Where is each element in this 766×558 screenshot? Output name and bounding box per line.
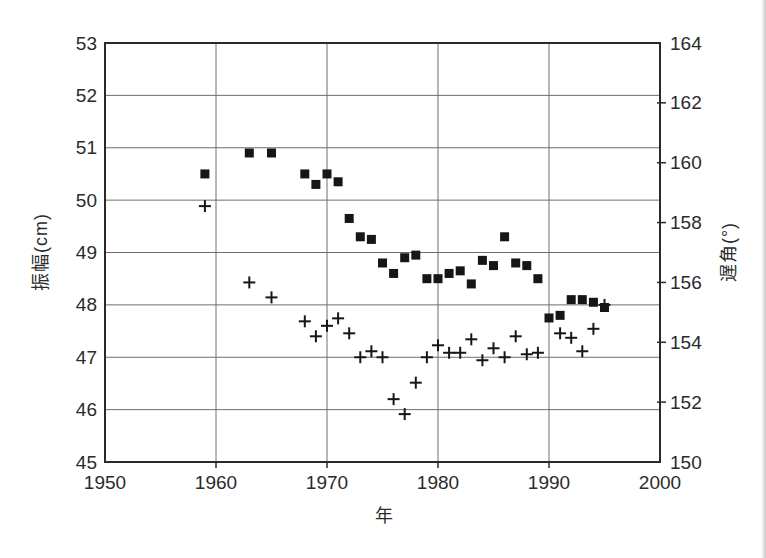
scatter-figure: 1950196019701980199020005352515049484746… [0,0,766,558]
amplitude-point [522,261,531,270]
y-left-tick-label: 47 [76,347,97,368]
amplitude-point [378,258,387,267]
amplitude-point [545,313,554,322]
amplitude-point [422,274,431,283]
amplitude-point [489,261,498,270]
amplitude-point [567,295,576,304]
y-left-tick-label: 51 [76,137,97,158]
y-right-tick-label: 152 [670,392,702,413]
x-axis-title: 年 [375,501,394,527]
amplitude-point [356,232,365,241]
y-right-tick-label: 156 [670,272,702,293]
x-tick-label: 1970 [306,472,348,493]
amplitude-point [578,295,587,304]
y-left-tick-label: 50 [76,190,97,211]
amplitude-point [434,274,443,283]
amplitude-point [245,148,254,157]
y-right-tick-label: 160 [670,152,702,173]
y-left-tick-label: 53 [76,33,97,54]
y-axis-title-right: 遅角(°) [714,222,740,282]
y-left-tick-label: 46 [76,399,97,420]
amplitude-point [334,177,343,186]
amplitude-point [500,232,509,241]
amplitude-point [478,256,487,265]
amplitude-point [311,180,320,189]
amplitude-point [389,269,398,278]
amplitude-point [323,169,332,178]
y-left-tick-label: 48 [76,294,97,315]
amplitude-point [533,274,542,283]
x-tick-label: 1980 [417,472,459,493]
y-right-tick-label: 164 [670,33,702,54]
scatter-chart-canvas: 1950196019701980199020005352515049484746… [0,0,766,558]
y-right-tick-label: 162 [670,92,702,113]
amplitude-point [345,214,354,223]
amplitude-point [445,269,454,278]
amplitude-point [556,311,565,320]
amplitude-point [467,279,476,288]
x-tick-label: 1950 [84,472,126,493]
amplitude-point [267,148,276,157]
y-right-tick-label: 154 [670,332,702,353]
amplitude-point [511,258,520,267]
x-tick-label: 1990 [528,472,570,493]
amplitude-point [300,169,309,178]
y-axis-title-left: 振幅(cm) [26,213,52,291]
y-right-tick-label: 158 [670,212,702,233]
amplitude-point [456,266,465,275]
x-tick-label: 2000 [639,472,681,493]
amplitude-point [200,169,209,178]
x-tick-label: 1960 [195,472,237,493]
y-left-tick-label: 49 [76,242,97,263]
amplitude-point [400,253,409,262]
amplitude-point [589,298,598,307]
amplitude-point [411,251,420,260]
amplitude-point [367,235,376,244]
y-left-tick-label: 45 [76,452,97,473]
y-right-tick-label: 150 [670,452,702,473]
y-left-tick-label: 52 [76,85,97,106]
